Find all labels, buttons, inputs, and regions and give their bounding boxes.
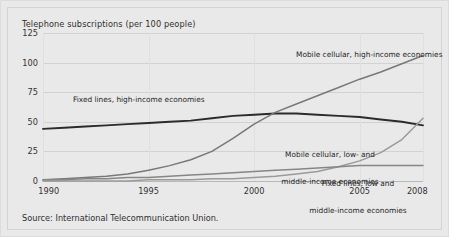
annotation-mobile-low-line1: Mobile cellular, low- and	[281, 150, 378, 159]
y-tick-125: 125	[22, 28, 38, 38]
plot-area: 125 100 75 50 25 0 1990 1995 2000 2005 2…	[43, 33, 423, 181]
y-tick-50: 50	[28, 117, 38, 127]
chart-figure: Telephone subscriptions (per 100 people)…	[0, 0, 449, 237]
source-note: Source: International Telecommunication …	[22, 213, 218, 223]
y-tick-100: 100	[22, 58, 38, 68]
x-tick-1995: 1995	[138, 186, 159, 196]
annotation-fixed-low-line2: middle-income economies	[309, 206, 406, 215]
annotation-mobile-high: Mobile cellular, high-income economies	[296, 50, 443, 59]
x-tick-2008: 2008	[407, 186, 428, 196]
y-tick-0: 0	[33, 176, 38, 186]
annotation-fixed-low: Fixed lines, low and middle-income econo…	[309, 160, 406, 234]
x-tick-2000: 2000	[244, 186, 265, 196]
y-tick-25: 25	[28, 146, 38, 156]
y-tick-75: 75	[28, 87, 38, 97]
series-line	[43, 114, 423, 129]
x-tick-1990: 1990	[38, 186, 59, 196]
annotation-fixed-low-line1: Fixed lines, low and	[309, 179, 406, 188]
page-title: Telephone subscriptions (per 100 people)	[22, 19, 196, 29]
annotation-fixed-high: Fixed lines, high-income economies	[73, 95, 205, 104]
